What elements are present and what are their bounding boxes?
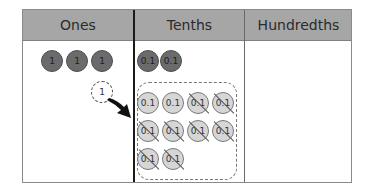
tenths-counter-crossed: 0.1: [187, 120, 209, 142]
ones-counter: 1: [41, 50, 63, 72]
tenths-counter: 0.1: [137, 50, 159, 72]
header-hundredths: Hundredths: [245, 10, 352, 40]
tenths-counter-crossed: 0.1: [212, 120, 234, 142]
tenths-counter: 0.1: [162, 92, 184, 114]
tenths-counter-crossed: 0.1: [162, 148, 184, 170]
header-tenths: Tenths: [135, 10, 244, 40]
ones-counter: 1: [66, 50, 88, 72]
ones-counter: 1: [91, 50, 113, 72]
tenths-counter: 0.1: [137, 92, 159, 114]
tenths-counter-crossed: 0.1: [212, 92, 234, 114]
exchange-arrow-icon: [105, 98, 135, 120]
tenths-counter: 0.1: [160, 50, 182, 72]
chart-header: Ones Tenths Hundredths: [23, 10, 351, 41]
tenths-counter-crossed: 0.1: [162, 120, 184, 142]
tenths-hundredths-divider: [244, 10, 245, 182]
ones-tenths-divider: [133, 10, 135, 182]
tenths-counter-crossed: 0.1: [137, 148, 159, 170]
header-ones: Ones: [23, 10, 133, 40]
tenths-counter-crossed: 0.1: [187, 92, 209, 114]
tenths-counter-crossed: 0.1: [137, 120, 159, 142]
place-value-chart: Ones Tenths Hundredths 1 1 1 1 0.1 0.1 0…: [22, 9, 352, 183]
